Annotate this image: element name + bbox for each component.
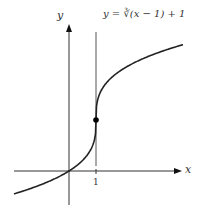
- y-axis-arrow-icon: [66, 24, 72, 32]
- x-axis-arrow-icon: [174, 168, 182, 174]
- equation-label: y = ∛(x − 1) + 1: [103, 8, 185, 19]
- inflection-point: [93, 117, 99, 123]
- y-axis-label: y: [57, 9, 63, 22]
- tick-label: 1: [93, 177, 99, 187]
- x-axis-label: x: [185, 163, 191, 176]
- graph: y x 1 y = ∛(x − 1) + 1: [0, 0, 202, 211]
